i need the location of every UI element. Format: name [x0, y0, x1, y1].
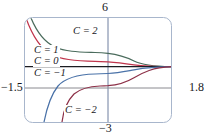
plot-canvas [0, 0, 210, 137]
direction-field-figure: 6 −3 −1.5 1.8 C = 2 C = 1 C = 0 C = −1 C… [0, 0, 210, 137]
axis-tick-top: 6 [102, 1, 108, 13]
curve-annotation-c-0: C = 0 [33, 56, 60, 67]
curve-annotation-c-minus-1: C = −1 [33, 68, 67, 79]
axis-tick-right: 1.8 [189, 81, 204, 93]
curve-annotation-c-2: C = 2 [72, 26, 99, 37]
axis-tick-left: −1.5 [1, 81, 23, 93]
axis-tick-bottom: −3 [99, 122, 112, 134]
curve-annotation-c-minus-2: C = −2 [64, 105, 98, 116]
curve-annotation-c-1: C = 1 [33, 45, 60, 56]
